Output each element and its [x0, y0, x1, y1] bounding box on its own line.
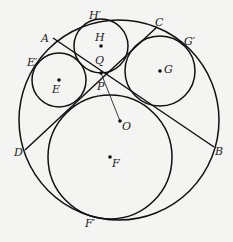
label-b: B [214, 145, 223, 158]
geometry-diagram: A B C D E E′ F F′ G G′ H H′ O P Q [0, 0, 233, 242]
diagram-svg: A B C D E E′ F F′ G G′ H H′ O P Q [0, 0, 233, 242]
chord-cd [25, 27, 157, 150]
point-g [158, 69, 162, 73]
label-q: Q [95, 54, 104, 67]
label-d: D [13, 146, 23, 159]
point-e [57, 78, 61, 82]
label-c: C [155, 16, 164, 29]
chord-ab [53, 38, 214, 147]
label-h-prime: H′ [88, 9, 102, 22]
point-h [99, 44, 103, 48]
label-e-prime: E′ [26, 56, 38, 69]
point-q [99, 71, 103, 75]
label-f: F [111, 157, 120, 170]
label-a: A [40, 32, 49, 45]
label-f-prime: F′ [84, 217, 96, 230]
label-o: O [122, 120, 131, 133]
label-h: H [94, 31, 105, 44]
label-g: G [164, 63, 173, 76]
label-p: P [96, 80, 105, 93]
label-g-prime: G′ [184, 35, 196, 48]
label-e: E [51, 83, 60, 96]
